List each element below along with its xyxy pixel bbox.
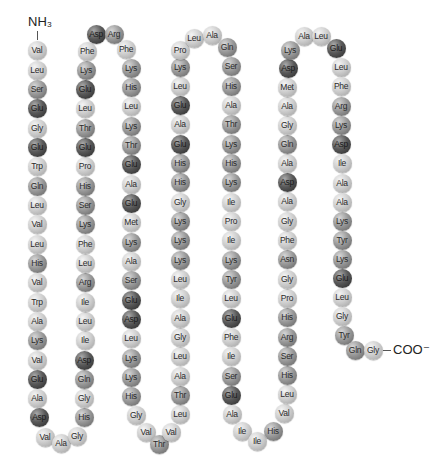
residue-bead: Leu [332, 58, 351, 77]
n-terminus-label: NH₃ [28, 14, 52, 29]
residue-bead: His [278, 366, 297, 385]
residue-bead: Gly [278, 270, 297, 289]
residue-bead: Glu [171, 96, 190, 115]
residue-bead: Ala [122, 175, 141, 194]
residue-bead: Lys [122, 117, 141, 136]
residue-bead: Val [275, 404, 294, 423]
residue-bead: Ala [222, 96, 241, 115]
residue-bead: Met [122, 213, 141, 232]
residue-bead: Lys [333, 250, 352, 269]
residue-bead: Val [28, 41, 47, 60]
residue-bead: Leu [76, 312, 95, 331]
residue-bead: Gly [68, 427, 87, 446]
residue-bead: Gln [218, 38, 237, 57]
residue-bead: Lys [333, 212, 352, 231]
residue-bead: Pro [222, 212, 241, 231]
residue-bead: Gly [333, 307, 352, 326]
residue-bead: Leu [278, 385, 297, 404]
residue-bead: Leu [333, 288, 352, 307]
residue-bead: His [171, 154, 190, 173]
residue-bead: Lys [222, 251, 241, 270]
residue-bead: Trp [28, 293, 47, 312]
residue-bead: Ser [278, 347, 297, 366]
residue-bead: His [76, 177, 95, 196]
residue-bead: Gly [127, 406, 146, 425]
residue-bead: Asp [87, 25, 106, 44]
residue-bead: Val [162, 423, 181, 442]
residue-bead: Glu [222, 386, 241, 405]
residue-bead: Ala [171, 115, 190, 134]
residue-bead: Glu [28, 370, 47, 389]
residue-bead: Ile [222, 193, 241, 212]
residue-bead: Asn [278, 250, 297, 269]
residue-bead: Lys [122, 349, 141, 368]
residue-bead: Glu [28, 138, 47, 157]
residue-bead: Ile [222, 347, 241, 366]
residue-bead: Leu [76, 254, 95, 273]
residue-bead: Pro [76, 157, 95, 176]
residue-bead: Glu [122, 155, 141, 174]
residue-bead: Arg [332, 97, 351, 116]
residue-bead: Arg [278, 328, 297, 347]
residue-bead: Glu [327, 39, 346, 58]
residue-bead: Ser [222, 57, 241, 76]
peptide-bead-diagram: NH₃ COO⁻ ValLeuSerGluGlyGluTrpGlnLeuValL… [0, 0, 442, 470]
residue-bead: Leu [28, 235, 47, 254]
residue-bead: Thr [171, 386, 190, 405]
residue-bead: Gln [28, 177, 47, 196]
residue-bead: Asp [279, 59, 298, 78]
residue-bead: Lys [122, 233, 141, 252]
residue-bead: Lys [122, 59, 141, 78]
residue-bead: His [75, 408, 94, 427]
residue-bead: Gln [278, 135, 297, 154]
residue-bead: Gly [75, 389, 94, 408]
residue-bead: Ser [122, 271, 141, 290]
residue-bead: Phe [117, 40, 136, 59]
residue-bead: Ala [295, 27, 314, 46]
residue-bead: Lys [222, 135, 241, 154]
residue-bead: Leu [76, 99, 95, 118]
residue-bead: Ile [171, 289, 190, 308]
residue-bead: Lys [222, 173, 241, 192]
residue-bead: Lys [171, 251, 190, 270]
residue-bead: Ile [333, 154, 352, 173]
residue-bead: Ser [28, 80, 47, 99]
residue-bead: Tyr [222, 270, 241, 289]
residue-bead: Leu [171, 77, 190, 96]
residue-bead: Ala [333, 174, 352, 193]
residue-bead: Gly [171, 328, 190, 347]
residue-bead: Leu [122, 97, 141, 116]
residue-bead: Glu [171, 135, 190, 154]
residue-bead: Leu [171, 347, 190, 366]
residue-bead: Thr [222, 115, 241, 134]
residue-bead: Pro [278, 289, 297, 308]
residue-bead: Leu [185, 29, 204, 48]
residue-bead: His [278, 308, 297, 327]
residue-bead: Gln [75, 370, 94, 389]
residue-bead: Leu [28, 196, 47, 215]
residue-bead: Ala [278, 154, 297, 173]
residue-bead: Ala [278, 97, 297, 116]
residue-bead: Asp [75, 351, 94, 370]
residue-bead: Glu [222, 309, 241, 328]
residue-bead: Lys [77, 61, 96, 80]
residue-bead: Ile [76, 293, 95, 312]
residue-bead: His [122, 387, 141, 406]
residue-bead: His [222, 154, 241, 173]
residue-bead: Lys [332, 116, 351, 135]
residue-bead: Asp [332, 135, 351, 154]
residue-bead: Ile [222, 231, 241, 250]
residue-bead: Met [278, 78, 297, 97]
c-terminus-label: COO⁻ [393, 342, 430, 357]
residue-bead: Ala [122, 252, 141, 271]
residue-bead: Asp [278, 173, 297, 192]
c-terminus-bond [383, 350, 391, 351]
residue-bead: Val [28, 351, 47, 370]
residue-bead: Phe [76, 235, 95, 254]
residue-bead: Gln [346, 341, 365, 360]
residue-bead: Lys [171, 212, 190, 231]
residue-bead: Gly [278, 212, 297, 231]
residue-bead: Glu [122, 291, 141, 310]
residue-bead: Ala [171, 309, 190, 328]
residue-bead: Phe [332, 77, 351, 96]
